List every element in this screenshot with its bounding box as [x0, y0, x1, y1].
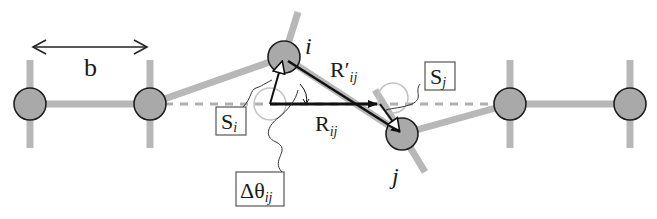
- node-i: [268, 41, 300, 73]
- node-5: [494, 88, 526, 120]
- callout-leader-S-j: [386, 84, 420, 110]
- node-2: [134, 88, 166, 120]
- node-1: [14, 88, 46, 120]
- label-R-prime: R′ij: [330, 57, 357, 85]
- label-b: b: [84, 53, 97, 82]
- diagram-canvas: b i j R′ij Rij Si Sj Δθij: [0, 0, 657, 219]
- label-j: j: [389, 163, 399, 189]
- node-j: [386, 118, 418, 150]
- node-6: [614, 88, 646, 120]
- side-bonds: [30, 12, 630, 172]
- angle-arc: [300, 84, 307, 104]
- label-i: i: [305, 33, 312, 59]
- label-R: Rij: [315, 111, 338, 139]
- callout-leader-dtheta: [268, 90, 298, 172]
